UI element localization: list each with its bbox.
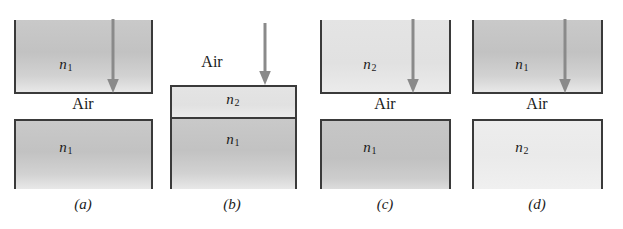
panel-d-air-gap-label: Air: [526, 95, 547, 113]
panel-c-top-block-label: n2: [363, 56, 376, 73]
panel-c-bottom-block-label: n1: [363, 139, 376, 156]
panel-d-bottom-block-label: n2: [515, 139, 528, 156]
panel-c-bottom-block: [320, 119, 451, 189]
panel-c-incident-ray-arrow: [406, 19, 420, 94]
panel-d-caption: (d): [528, 196, 546, 213]
panel-a-bottom-block-label: n1: [59, 139, 72, 156]
panel-b-incident-ray-arrow: [258, 23, 272, 86]
panel-c-caption: (c): [377, 196, 394, 213]
panel-b: Air n2 n1 (b): [160, 0, 312, 229]
panel-d: n1 Air n2 (d): [464, 0, 623, 229]
panel-c-air-gap-label: Air: [374, 95, 395, 113]
panel-d-bottom-block: [472, 119, 603, 189]
panel-a-top-block: [14, 20, 153, 94]
panel-a-incident-ray-arrow: [106, 19, 120, 94]
panel-a-air-gap-label: Air: [72, 95, 93, 113]
panel-a-bottom-block: [14, 119, 153, 189]
panel-a-top-block-label: n1: [59, 56, 72, 73]
panel-a: n1 Air n1 (a): [0, 0, 160, 229]
panel-c: n2 Air n1 (c): [312, 0, 464, 229]
panel-b-caption: (b): [223, 196, 241, 213]
panel-d-top-block: [472, 20, 603, 94]
panel-b-bottom-layer-label: n1: [226, 131, 239, 148]
panel-b-air-label: Air: [201, 53, 222, 71]
panel-c-top-block: [320, 20, 451, 94]
panel-b-top-layer-label: n2: [226, 91, 239, 108]
panel-a-caption: (a): [74, 196, 92, 213]
panel-d-top-block-label: n1: [515, 56, 528, 73]
refraction-figure: n1 Air n1 (a) Air n2 n1 (b): [0, 0, 623, 229]
panel-b-bottom-layer: [172, 119, 295, 189]
panel-d-incident-ray-arrow: [558, 19, 572, 94]
